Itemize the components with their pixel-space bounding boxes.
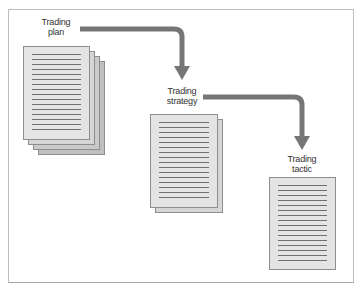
label-line: Trading <box>152 86 212 96</box>
document-page-front <box>23 46 90 140</box>
label-trading-strategy: Trading strategy <box>152 86 212 106</box>
text-lines <box>32 54 81 134</box>
label-line: strategy <box>152 96 212 106</box>
label-trading-plan: Trading plan <box>26 17 86 37</box>
text-lines <box>159 122 209 202</box>
text-lines <box>278 185 327 265</box>
label-line: Trading <box>272 154 332 164</box>
label-line: plan <box>26 27 86 37</box>
document-page-front <box>269 177 336 270</box>
label-line: Trading <box>26 17 86 27</box>
label-line: tactic <box>272 164 332 174</box>
document-page-front <box>150 114 218 208</box>
label-trading-tactic: Trading tactic <box>272 154 332 174</box>
